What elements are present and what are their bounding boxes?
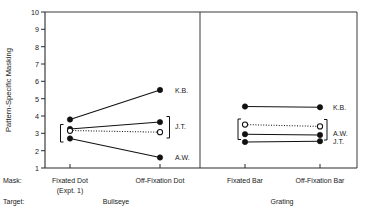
left-bracket-offfixation [167, 117, 170, 139]
right-series-mean-dotted-line [245, 125, 320, 127]
left-series-aw-line [70, 139, 160, 158]
y-ticklabel-2: 2 [35, 147, 39, 156]
plot-frame [45, 12, 357, 168]
right-panel-series: K.B. A.W. J.T. [238, 104, 348, 146]
left-point-kb-fixated [67, 117, 72, 122]
right-point-jt-fixated [242, 139, 247, 144]
left-point-mean-fixated [67, 128, 72, 133]
right-point-aw-fixated [242, 132, 247, 137]
cat-label-offfixation-bar: Off-Fixation Bar [296, 177, 346, 184]
y-ticklabel-7: 7 [35, 60, 39, 69]
right-bracket-offfixation [324, 120, 327, 141]
y-ticklabel-1: 1 [35, 164, 39, 173]
cat-label-offfixation-dot: Off-Fixation Dot [136, 177, 185, 184]
pattern-specific-masking-chart: Pattern-Specific Masking 10 9 8 7 6 5 4 … [0, 0, 371, 218]
right-point-kb-offfixation [317, 105, 322, 110]
row-label-target: Target: [3, 198, 24, 206]
left-series-kb-line [70, 90, 160, 120]
right-point-mean-offfixation [317, 124, 322, 129]
left-point-jt-offfixation [157, 119, 162, 124]
right-point-jt-offfixation [317, 139, 322, 144]
right-point-aw-offfixation [317, 132, 322, 137]
row-label-mask: Mask: [3, 177, 22, 184]
left-panel-series: K.B. J.T. A.W. [61, 87, 190, 162]
left-label-kb: K.B. [175, 87, 188, 94]
right-label-kb: K.B. [333, 104, 346, 111]
target-label-bullseye: Bullseye [103, 198, 130, 206]
right-series-aw-line [245, 134, 320, 135]
y-ticklabel-5: 5 [35, 95, 39, 104]
cat-label-fixated-dot: Fixated Dot [52, 177, 88, 184]
y-axis-label: Pattern-Specific Masking [4, 48, 13, 132]
y-ticklabel-10: 10 [31, 8, 39, 17]
left-label-jt: J.T. [175, 123, 186, 130]
left-bracket-fixated [61, 125, 64, 143]
left-point-mean-offfixation [157, 130, 162, 135]
y-axis: 10 9 8 7 6 5 4 3 2 1 [31, 8, 45, 173]
cat-sublabel-expt1: (Expt. 1) [57, 187, 83, 195]
y-ticklabel-9: 9 [35, 25, 39, 34]
target-label-grating: Grating [271, 198, 294, 206]
y-ticklabel-8: 8 [35, 43, 39, 52]
left-label-aw: A.W. [175, 154, 190, 161]
y-ticklabel-4: 4 [35, 112, 39, 121]
right-label-aw: A.W. [333, 130, 348, 137]
right-series-kb-line [245, 107, 320, 108]
right-label-jt: J.T. [333, 138, 344, 145]
y-ticklabel-6: 6 [35, 77, 39, 86]
right-bracket-fixated [238, 119, 241, 140]
left-series-jt-line [70, 122, 160, 129]
figure-container: Pattern-Specific Masking 10 9 8 7 6 5 4 … [0, 0, 371, 218]
right-series-jt-line [245, 141, 320, 142]
y-ticklabel-3: 3 [35, 129, 39, 138]
left-series-mean-dotted-line [70, 131, 160, 133]
left-point-kb-offfixation [157, 87, 162, 92]
x-axis-ticks [70, 164, 320, 168]
cat-label-fixated-bar: Fixated Bar [227, 177, 263, 184]
left-point-aw-fixated [67, 136, 72, 141]
right-point-mean-fixated [242, 122, 247, 127]
left-point-aw-offfixation [157, 155, 162, 160]
right-point-kb-fixated [242, 104, 247, 109]
